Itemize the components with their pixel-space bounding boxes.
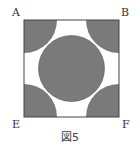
vertex-label-b: B — [121, 7, 129, 18]
figure-caption: 図5 — [0, 132, 140, 143]
vertex-label-e: E — [12, 119, 20, 130]
center-circle — [39, 36, 105, 102]
geometry-figure: A B E F 図5 — [0, 0, 140, 153]
vertex-label-a: A — [12, 7, 20, 18]
vertex-label-f: F — [122, 119, 130, 130]
